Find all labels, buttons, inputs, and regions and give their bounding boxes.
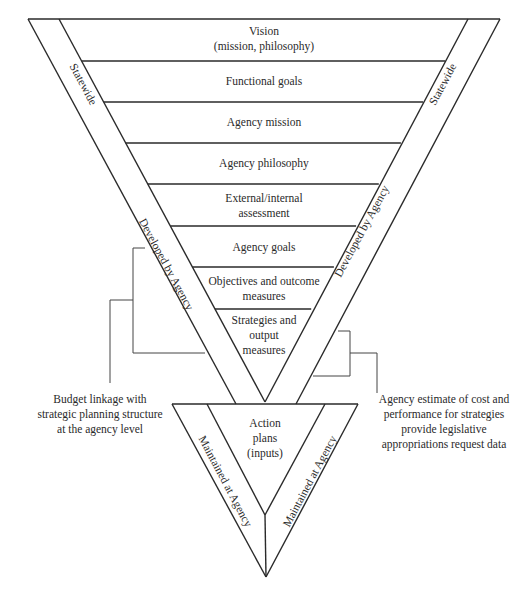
note-line: Agency estimate of cost and <box>366 392 522 407</box>
outer-left-edge <box>28 19 236 404</box>
developed-right-label: Developed by Agency <box>332 183 392 279</box>
level-agency-mission: Agency mission <box>227 116 302 129</box>
level-functional-goals: Functional goals <box>226 75 303 88</box>
lower-center-line <box>265 515 266 577</box>
note-line: strategic planning structure <box>10 407 190 422</box>
note-line: at the agency level <box>10 422 190 437</box>
note-line: Budget linkage with <box>10 392 190 407</box>
lower-outer-right <box>266 404 358 577</box>
note-line: appropriations request data <box>366 437 522 452</box>
level-strategies: Strategies andoutputmeasures <box>232 314 297 356</box>
strategic-planning-funnel: Vision(mission, philosophy) Functional g… <box>0 0 524 593</box>
action-plans: Actionplans(inputs) <box>247 417 283 460</box>
level-agency-philosophy: Agency philosophy <box>219 157 309 170</box>
level-objectives: Objectives and outcomemeasures <box>208 275 319 302</box>
note-line: performance for strategies <box>366 407 522 422</box>
level-assessment: External/internalassessment <box>225 192 302 219</box>
outer-right-edge <box>296 19 500 404</box>
maintained-left-label: Maintained at Agency <box>196 433 255 529</box>
budget-linkage-note: Budget linkage with strategic planning s… <box>10 392 190 437</box>
agency-estimate-note: Agency estimate of cost and performance … <box>366 392 522 452</box>
left-bracket-stub <box>110 300 133 383</box>
maintained-right-label: Maintained at Agency <box>280 433 339 529</box>
note-line: provide legislative <box>366 422 522 437</box>
developed-left-label: Developed by Agency <box>136 216 196 312</box>
right-bracket-stub <box>350 353 377 393</box>
level-agency-goals: Agency goals <box>233 241 296 254</box>
level-vision: Vision(mission, philosophy) <box>214 25 314 53</box>
